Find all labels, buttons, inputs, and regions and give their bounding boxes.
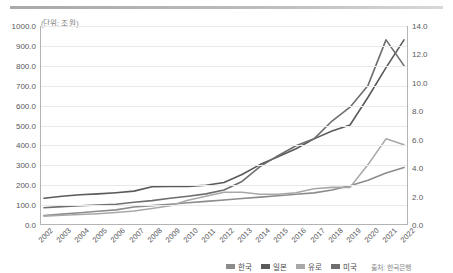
y-tick-label-left: 800.0 — [16, 61, 36, 70]
x-tick-label: 2017 — [308, 226, 326, 244]
source-note: 출처: 한국은행 — [371, 262, 411, 272]
x-tick-label: 2005 — [91, 226, 109, 244]
y-tick-label-left: 700.0 — [16, 81, 36, 90]
y-tick-label-right: 2.0 — [412, 192, 423, 201]
legend-swatch-icon — [226, 264, 235, 269]
y-tick-label-right: 14.0 — [412, 22, 428, 31]
y-tick-label-right: 6.0 — [412, 135, 423, 144]
y-tick-label-right: 10.0 — [412, 78, 428, 87]
x-tick-label: 2006 — [109, 226, 127, 244]
legend-swatch-icon — [296, 264, 305, 269]
y-tick-label-right: 4.0 — [412, 164, 423, 173]
x-tick-label: 2022 — [399, 226, 417, 244]
legend-label: 유로 — [308, 261, 322, 272]
gridline — [41, 46, 407, 47]
x-tick-label: 2008 — [145, 226, 163, 244]
x-tick-label: 2011 — [200, 227, 218, 245]
x-tick-label: 2002 — [37, 226, 55, 244]
x-tick-label: 2007 — [127, 226, 145, 244]
y-tick-label-left: 100.0 — [16, 201, 36, 210]
x-tick-label: 2004 — [73, 226, 91, 244]
legend-label: 한국 — [238, 261, 252, 272]
y-tick-label-left: 0.0 — [25, 221, 36, 230]
legend-item-한국[interactable]: 한국 — [226, 261, 252, 272]
gridline — [41, 126, 407, 127]
x-tick-label: 2016 — [290, 226, 308, 244]
legend-item-일본[interactable]: 일본 — [261, 261, 287, 272]
gridline — [41, 205, 407, 206]
legend-item-미국[interactable]: 미국 — [331, 261, 357, 272]
x-tick-label: 2012 — [218, 226, 236, 244]
x-tick-label: 2019 — [344, 226, 362, 244]
x-tick-label: 2020 — [362, 226, 380, 244]
legend-item-유로[interactable]: 유로 — [296, 261, 322, 272]
y-tick-label-left: 600.0 — [16, 101, 36, 110]
y-tick-label-right: 8.0 — [412, 107, 423, 116]
y-tick-label-left: 500.0 — [16, 121, 36, 130]
y-tick-label-right: 12.0 — [412, 50, 428, 59]
y-tick-label-left: 400.0 — [16, 141, 36, 150]
y-tick-label-left: 300.0 — [16, 161, 36, 170]
y-axis-right: 0.02.04.06.08.010.012.014.0 — [412, 26, 448, 225]
x-tick-label: 2018 — [326, 226, 344, 244]
y-axis-left: 0.0100.0200.0300.0400.0500.0600.0700.080… — [0, 26, 36, 225]
x-axis: 2002200320042005200620072008200920102011… — [40, 226, 408, 256]
gridline — [41, 86, 407, 87]
y-tick-label-left: 200.0 — [16, 181, 36, 190]
gridline — [41, 145, 407, 146]
x-tick-label: 2014 — [254, 226, 272, 244]
series-line-일본 — [44, 40, 404, 198]
gridline — [41, 26, 407, 27]
legend-swatch-icon — [261, 264, 270, 269]
chart-legend: 한국일본유로미국출처: 한국은행 — [226, 261, 411, 272]
legend-label: 일본 — [273, 261, 287, 272]
y-tick-label-left: 900.0 — [16, 41, 36, 50]
legend-label: 미국 — [343, 261, 357, 272]
chart-container: (단위: 조 원) 0.0100.0200.0300.0400.0500.060… — [0, 12, 453, 260]
gridline — [41, 106, 407, 107]
gridline — [41, 165, 407, 166]
gridline — [41, 185, 407, 186]
x-tick-label: 2010 — [181, 226, 199, 244]
x-tick-label: 2013 — [236, 226, 254, 244]
gridline — [41, 66, 407, 67]
series-line-한국 — [44, 167, 404, 215]
legend-swatch-icon — [331, 264, 340, 269]
top-divider — [10, 6, 443, 9]
x-tick-label: 2015 — [272, 226, 290, 244]
plot-area — [40, 26, 408, 225]
x-tick-label: 2009 — [163, 226, 181, 244]
x-tick-label: 2003 — [55, 226, 73, 244]
x-tick-label: 2021 — [381, 226, 399, 244]
y-tick-label-left: 1000.0 — [12, 22, 36, 31]
y-tick-label-right: 0.0 — [412, 221, 423, 230]
